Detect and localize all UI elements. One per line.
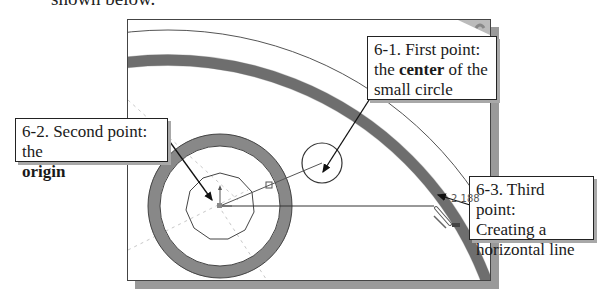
callout-text: 6-3. Third point: (476, 180, 587, 220)
callout-second-point: 6-2. Second point: the origin (15, 118, 168, 162)
callout-text: 6-1. First point: (374, 40, 490, 60)
callout-text: origin (22, 162, 161, 182)
callout-text: horizontal line (476, 240, 587, 260)
callout-text: 6-2. Second point: the (22, 122, 161, 162)
callout-text: the center of the (374, 60, 490, 80)
callout-text: small circle (374, 80, 490, 100)
callout-third-point: 6-3. Third point: Creating a horizontal … (469, 176, 594, 240)
dimension-readout: 2.188 (451, 193, 480, 204)
callout-text: Creating a (476, 220, 587, 240)
callout-first-point: 6-1. First point: the center of the smal… (367, 36, 497, 100)
